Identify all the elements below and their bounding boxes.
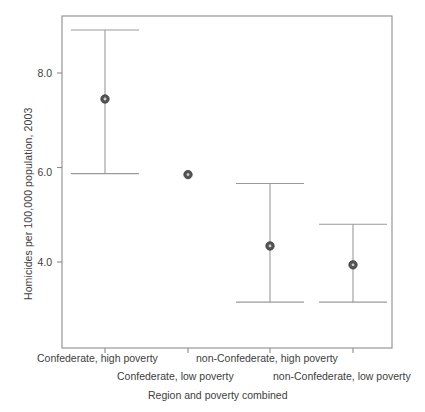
data-point-center-2 (269, 245, 272, 248)
plot-canvas (0, 0, 425, 412)
data-series-point-2 (236, 184, 304, 303)
chart-figure: Homicides per 100,000 population, 2003 8… (0, 0, 425, 412)
data-point-center-3 (352, 263, 355, 266)
data-series-point-0 (71, 30, 139, 174)
plot-frame (62, 16, 392, 348)
data-series-point-1 (184, 170, 192, 178)
data-series-point-3 (319, 224, 387, 302)
data-point-center-1 (187, 173, 190, 176)
data-point-center-0 (104, 98, 107, 101)
